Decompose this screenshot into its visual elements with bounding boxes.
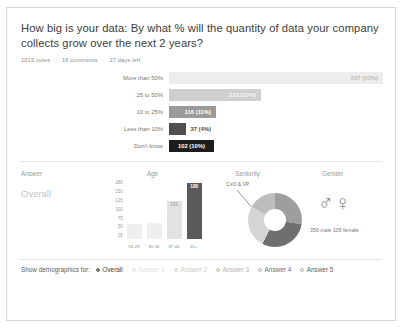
age-tick: 25 [118,234,123,239]
column-header-gender: Gender [322,170,381,177]
filter-option-label: Answer 5 [307,266,334,273]
poll-bar: 537 (53%) [169,72,383,84]
age-x-label: 45+ [185,244,203,249]
filter-option-label: Answer 3 [222,266,249,273]
section-divider [20,161,382,162]
female-icon: ♀ [335,191,352,214]
demographics-header: Answer Age Seniority Gender [7,170,395,177]
poll-bar-area: 223 (22%) [169,89,383,101]
poll-meta: 1015 votes · 16 comments · 27 days left [21,57,381,63]
poll-bar-area: 537 (53%) [169,72,383,84]
filter-option-label: Answer 2 [180,266,207,273]
age-bar [147,223,162,239]
comment-count: 16 comments [62,57,98,63]
gender-caption: 356 male 105 female [310,227,358,233]
poll-bar-area: 37 (4%) [169,123,383,135]
poll-option-row[interactable]: Less than 10% 37 (4%) [7,123,383,135]
poll-option-value: 37 (4%) [190,123,211,135]
vote-count: 1015 votes [21,57,50,63]
age-x-label: 30-36 [145,244,163,249]
question-block: How big is your data: By what % will the… [7,8,395,63]
seniority-annotation: CxO & VP [226,181,249,187]
poll-option-label: More than 50% [7,75,169,81]
poll-results: More than 50% 537 (53%) 25 to 50% 223 (2… [7,72,395,152]
filter-option-answer-3[interactable]: Answer 3 [216,266,249,273]
filter-option-answer-4[interactable]: Answer 4 [258,266,291,273]
poll-bar [169,123,186,135]
age-chart-bars: 121 180 [127,183,211,239]
radio-icon[interactable] [216,268,220,272]
poll-option-label: 25 to 50% [7,92,169,98]
filter-option-label: Overall [102,266,122,273]
filter-label: Show demographics for: [21,266,90,273]
age-bar-value: 121 [170,202,178,207]
demographics-row-label: Overall [21,181,107,259]
column-header-seniority: Seniority [235,170,322,177]
poll-option-label: 10 to 25% [7,109,169,115]
poll-option-label: Don't know [7,143,169,149]
age-bar: 121 [167,201,182,239]
age-chart-xaxis: 18-29 30-36 37-44 45+ [125,244,217,249]
age-bar [127,224,142,239]
poll-option-value: 102 (10%) [178,143,205,149]
filter-option-label: Answer 1 [138,266,165,273]
poll-bar: 223 (22%) [169,89,261,101]
column-header-answer: Answer [21,170,147,177]
seniority-chart: CxO & VP [224,181,310,255]
male-icon: ♂ [318,191,335,214]
poll-option-value: 116 (11%) [185,109,212,115]
age-bar: 180 [187,183,202,239]
poll-bar-area: 102 (10%) [169,140,383,152]
radio-icon[interactable] [132,268,136,272]
column-header-age: Age [147,170,236,177]
age-tick: 75 [118,217,123,222]
poll-option-value: 537 (53%) [351,75,378,81]
gender-symbols: ♂♀ [318,191,352,215]
demographics-row: Overall 180 150 125 100 75 50 25 121 180 [7,181,395,259]
poll-option-row[interactable]: 10 to 25% 116 (11%) [7,106,383,118]
filter-option-label: Answer 4 [265,266,292,273]
age-tick: 180 [115,181,123,186]
poll-option-row[interactable]: 25 to 50% 223 (22%) [7,89,383,101]
poll-option-label: Less than 10% [7,126,169,132]
gender-chart: ♂♀ 356 male 105 female [310,181,381,255]
age-chart: 180 150 125 100 75 50 25 121 180 18-29 [107,181,225,253]
poll-bar-area: 116 (11%) [169,106,383,118]
poll-option-value: 223 (22%) [229,92,256,98]
poll-option-row[interactable]: More than 50% 537 (53%) [7,72,383,84]
radio-icon[interactable] [174,268,178,272]
age-tick: 150 [115,190,123,195]
age-chart-yaxis: 180 150 125 100 75 50 25 [107,181,123,239]
poll-bar: 116 (11%) [169,106,216,118]
age-tick: 125 [115,199,123,204]
age-x-label: 37-44 [165,244,183,249]
poll-option-row[interactable]: Don't know 102 (10%) [7,140,383,152]
demographics-filter: Show demographics for: Overall Answer 1 … [7,260,395,273]
age-x-label: 18-29 [125,244,143,249]
age-tick: 50 [118,225,123,230]
poll-bar: 102 (10%) [169,140,214,152]
filter-option-answer-2[interactable]: Answer 2 [174,266,207,273]
radio-icon[interactable] [258,268,262,272]
radio-icon[interactable] [300,268,304,272]
filter-option-overall[interactable]: Overall [96,266,123,273]
radio-icon[interactable] [96,268,100,272]
days-left: 27 days left [109,57,140,63]
poll-card: How big is your data: By what % will the… [6,7,396,321]
meta-separator: · [100,57,108,63]
page-title: How big is your data: By what % will the… [21,21,381,50]
filter-option-answer-5[interactable]: Answer 5 [300,266,333,273]
filter-option-answer-1[interactable]: Answer 1 [132,266,165,273]
age-tick: 100 [115,208,123,213]
age-bar-value: 180 [190,184,198,189]
meta-separator: · [52,57,60,63]
